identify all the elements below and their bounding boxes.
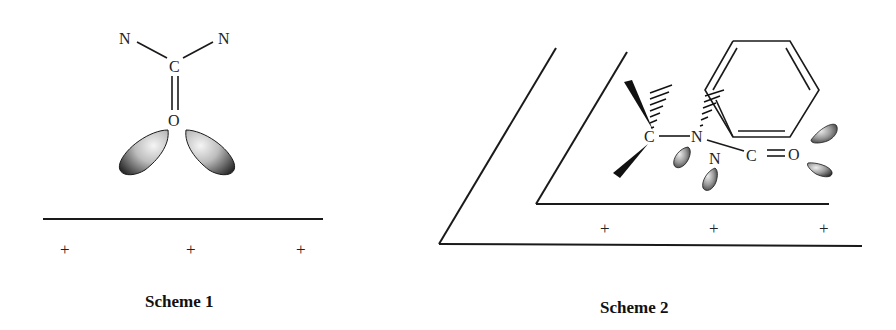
surface-charge: + [60,240,70,259]
lone-pair-lobe-o-lower [807,163,832,177]
wedge-bond-up [624,80,653,130]
urea-molecule: N N C O [119,30,235,175]
scheme-2-caption: Scheme 2 [600,298,668,317]
inner-plate-edge [536,52,627,204]
benzene-ring [705,41,819,137]
lone-pair-lobe-right [186,130,235,175]
surface-charge: + [600,219,610,238]
outer-plate-edge [439,48,556,244]
atom-carbon-carbonyl: C [746,147,757,164]
atom-nitrogen-lower: N [709,150,721,167]
scheme-1-caption: Scheme 1 [145,292,213,311]
bond-n-c-right [183,42,213,58]
wedge-bond-down [613,144,648,178]
outer-plate-base [439,244,862,246]
atom-oxygen: O [788,146,800,163]
scheme-2: C N N C O + + + [439,41,862,317]
atom-carbon: C [169,58,180,75]
surface-charge: + [819,219,829,238]
lone-pair-lobe-o-upper [811,124,837,143]
atom-n-left: N [119,30,131,47]
hashed-bond-c [650,85,672,128]
atom-oxygen: O [168,112,180,129]
atom-n-right: N [218,30,230,47]
scheme-1: N N C O + + + Scheme 1 [43,30,323,311]
lone-pair-lobe-c-n [674,147,691,168]
atom-nitrogen-amide: N [691,128,703,145]
bond-ring-to-c [716,100,733,137]
surface-charge: + [296,240,306,259]
surface-charge: + [186,240,196,259]
diagram-canvas: N N C O + + + Scheme 1 [0,0,896,330]
bond-n-c-left [137,42,167,58]
molecule-scheme-2: C N N C O [613,41,837,190]
atom-carbon-quaternary: C [644,128,655,145]
lone-pair-lobe-n-lower [703,168,718,190]
lone-pair-lobe-left [119,130,168,175]
surface-charge: + [709,219,719,238]
